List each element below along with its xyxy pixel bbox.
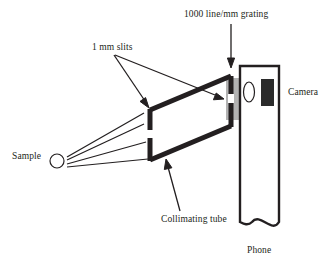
slit-right — [228, 94, 234, 103]
camera-lens-icon — [244, 82, 255, 102]
collimating-tube-annotation-arrow — [164, 159, 180, 211]
label-collimating-tube: Collimating tube — [161, 215, 227, 225]
figure-canvas: 1000 line/mm grating 1 mm slits Camera S… — [0, 0, 329, 264]
light-rays-group — [67, 113, 148, 167]
camera-module-icon — [261, 79, 274, 106]
slit-left — [147, 130, 153, 138]
label-phone: Phone — [247, 246, 271, 256]
light-ray-1 — [67, 113, 144, 157]
label-grating: 1000 line/mm grating — [184, 10, 268, 20]
sample-circle — [50, 154, 64, 168]
label-slits: 1 mm slits — [92, 43, 133, 53]
grating-annotation-arrow — [227, 24, 234, 68]
collimating-tube — [150, 76, 231, 161]
label-sample: Sample — [12, 152, 41, 162]
tube-edge-top — [150, 76, 231, 110]
tube-edge-bottom — [150, 126, 231, 160]
label-camera: Camera — [288, 88, 318, 98]
light-ray-2 — [67, 124, 144, 160]
